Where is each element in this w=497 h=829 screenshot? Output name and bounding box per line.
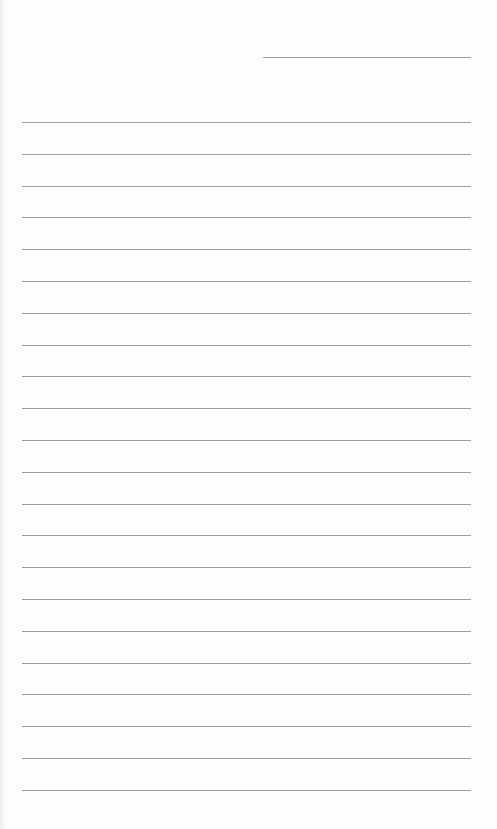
ruled-line [22, 313, 471, 314]
header-name-line [263, 57, 471, 58]
ruled-line [22, 535, 471, 536]
ruled-line [22, 663, 471, 664]
ruled-line [22, 186, 471, 187]
ruled-line [22, 726, 471, 727]
ruled-line [22, 345, 471, 346]
ruled-line [22, 631, 471, 632]
ruled-line [22, 472, 471, 473]
ruled-line [22, 281, 471, 282]
ruled-line [22, 408, 471, 409]
ruled-line [22, 154, 471, 155]
ruled-line [22, 440, 471, 441]
ruled-line [22, 599, 471, 600]
ruled-line [22, 758, 471, 759]
ruled-line [22, 694, 471, 695]
ruled-line [22, 567, 471, 568]
ruled-line [22, 249, 471, 250]
ruled-line [22, 504, 471, 505]
ruled-lines [22, 122, 471, 822]
ruled-line [22, 122, 471, 123]
ruled-line [22, 376, 471, 377]
ruled-line [22, 790, 471, 791]
ruled-line [22, 217, 471, 218]
paper-edge-shadow [0, 0, 6, 829]
